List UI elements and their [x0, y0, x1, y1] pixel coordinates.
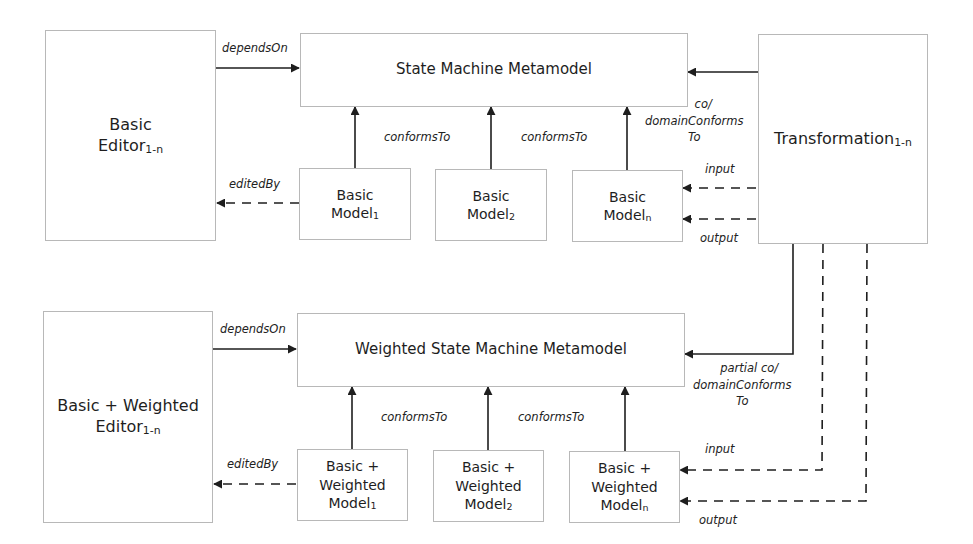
weighted-model-1-box: Basic + Weighted Model1: [297, 449, 408, 521]
model-line2: Weighted: [455, 477, 521, 495]
transformation-box: Transformation1-n: [758, 34, 928, 244]
conforms-to-label-bottom-2: conformsTo: [518, 409, 584, 426]
conforms-to-label-top-1: conformsTo: [384, 129, 450, 146]
depends-on-label-top: dependsOn: [222, 40, 288, 57]
basic-editor-line1: Basic: [109, 115, 151, 136]
conforms-to-label-top-2: conformsTo: [521, 129, 587, 146]
edited-by-label-bottom: editedBy: [227, 456, 278, 473]
model-line2: Model2: [467, 205, 515, 224]
model-line3: Modeln: [600, 496, 648, 515]
weighted-editor-line1: Basic + Weighted: [57, 396, 199, 417]
state-machine-metamodel-title: State Machine Metamodel: [396, 60, 592, 80]
model-line1: Basic: [609, 188, 646, 206]
model-line1: Basic: [336, 186, 373, 204]
model-line2: Modeln: [603, 206, 651, 225]
weighted-state-machine-metamodel-box: Weighted State Machine Metamodel: [297, 313, 685, 387]
edited-by-label-top: editedBy: [229, 176, 280, 193]
weighted-model-2-box: Basic + Weighted Model2: [433, 450, 544, 522]
partial-co-domain-arrow: [685, 244, 793, 354]
basic-editor-box: Basic Editor1-n: [45, 30, 216, 241]
basic-editor-line2: Editor1-n: [98, 136, 163, 157]
model-line2: Weighted: [319, 476, 385, 494]
partial-co-domain-conforms-label: partial co/ domainConforms To: [693, 360, 791, 410]
output-label-bottom: output: [699, 512, 737, 529]
basic-model-n-box: Basic Modeln: [572, 170, 683, 242]
weighted-model-n-box: Basic + Weighted Modeln: [569, 451, 680, 523]
transformation-title: Transformation1-n: [774, 129, 912, 150]
model-line1: Basic +: [462, 458, 515, 476]
model-line2: Weighted: [591, 478, 657, 496]
weighted-editor-line2: Editor1-n: [95, 417, 160, 438]
model-line3: Model1: [328, 494, 376, 513]
basic-model-2-box: Basic Model2: [435, 169, 547, 241]
co-domain-conforms-label-top: co/ domainConforms To: [645, 96, 743, 146]
weighted-metamodel-title: Weighted State Machine Metamodel: [355, 340, 627, 360]
output-label-top: output: [700, 230, 738, 247]
model-line1: Basic +: [326, 457, 379, 475]
input-label-top: input: [705, 161, 735, 178]
model-line2: Model1: [331, 204, 379, 223]
depends-on-label-bottom: dependsOn: [220, 321, 286, 338]
conforms-to-label-bottom-1: conformsTo: [381, 409, 447, 426]
input-label-bottom: input: [705, 441, 735, 458]
basic-model-1-box: Basic Model1: [299, 168, 411, 240]
input-arrow-bottom: [680, 244, 823, 470]
basic-weighted-editor-box: Basic + Weighted Editor1-n: [43, 311, 213, 523]
model-line3: Model2: [464, 495, 512, 514]
model-line1: Basic: [472, 187, 509, 205]
model-line1: Basic +: [598, 459, 651, 477]
state-machine-metamodel-box: State Machine Metamodel: [300, 33, 688, 107]
